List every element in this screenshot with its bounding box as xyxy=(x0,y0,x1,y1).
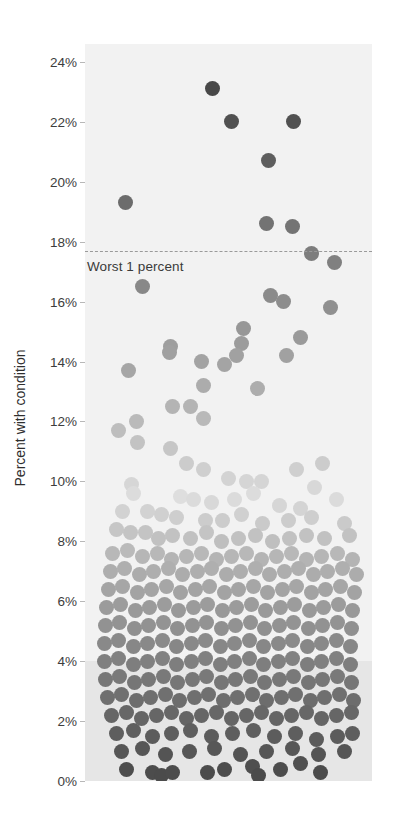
data-point xyxy=(175,567,190,582)
data-point xyxy=(111,423,126,438)
data-point xyxy=(254,705,269,720)
data-point xyxy=(127,621,142,636)
data-point xyxy=(275,582,290,597)
data-point xyxy=(198,651,213,666)
y-tick-label: 16% xyxy=(50,294,77,309)
data-point xyxy=(323,300,338,315)
data-point xyxy=(327,255,342,270)
y-tick-label: 18% xyxy=(50,234,77,249)
data-point xyxy=(233,747,248,762)
data-point xyxy=(246,723,261,738)
data-point xyxy=(285,741,300,756)
data-point xyxy=(214,675,229,690)
data-point xyxy=(207,741,222,756)
data-point xyxy=(135,741,150,756)
y-tick-label: 20% xyxy=(50,174,77,189)
data-point xyxy=(173,585,188,600)
data-point xyxy=(227,636,242,651)
data-point xyxy=(246,579,261,594)
y-tick-label: 12% xyxy=(50,414,77,429)
y-tick-label: 14% xyxy=(50,354,77,369)
data-point xyxy=(156,669,171,684)
data-point xyxy=(194,546,209,561)
data-point xyxy=(198,633,213,648)
data-point xyxy=(100,690,115,705)
data-point xyxy=(221,471,236,486)
data-point xyxy=(330,546,345,561)
data-point xyxy=(243,615,258,630)
data-point xyxy=(243,669,258,684)
data-point xyxy=(132,567,147,582)
data-point xyxy=(158,747,173,762)
data-point xyxy=(315,672,330,687)
data-point xyxy=(227,492,242,507)
data-point xyxy=(248,528,263,543)
data-point xyxy=(307,480,322,495)
data-point xyxy=(342,528,357,543)
data-point xyxy=(185,618,200,633)
data-point xyxy=(183,399,198,414)
data-point xyxy=(115,504,130,519)
data-point xyxy=(256,657,271,672)
data-point xyxy=(332,687,347,702)
data-point xyxy=(335,561,350,576)
data-point xyxy=(164,705,179,720)
data-point xyxy=(170,675,185,690)
data-point xyxy=(140,636,155,651)
data-point xyxy=(272,672,287,687)
data-point xyxy=(228,618,243,633)
data-point xyxy=(286,114,301,129)
data-point xyxy=(285,219,300,234)
data-point xyxy=(343,639,358,654)
y-axis: Percent with condition 24%22%20%18%16%14… xyxy=(0,0,85,830)
data-point xyxy=(141,672,156,687)
data-point xyxy=(143,690,158,705)
data-point xyxy=(121,363,136,378)
data-point xyxy=(171,603,186,618)
data-point xyxy=(288,687,303,702)
data-point xyxy=(271,636,286,651)
data-point xyxy=(188,582,203,597)
data-point xyxy=(109,726,124,741)
data-point xyxy=(140,504,155,519)
data-point xyxy=(259,744,274,759)
y-axis-title: Percent with condition xyxy=(12,303,28,533)
data-point xyxy=(343,657,358,672)
data-point xyxy=(146,564,161,579)
data-point xyxy=(142,600,157,615)
data-point xyxy=(233,564,248,579)
data-point xyxy=(112,669,127,684)
data-point xyxy=(231,531,246,546)
data-point xyxy=(286,615,301,630)
data-point xyxy=(196,462,211,477)
data-point xyxy=(236,321,251,336)
threshold-label: Worst 1 percent xyxy=(87,259,184,274)
data-point xyxy=(306,567,321,582)
data-point xyxy=(98,618,113,633)
data-point xyxy=(194,708,209,723)
threshold-line xyxy=(85,251,372,252)
data-point xyxy=(186,492,201,507)
data-point xyxy=(320,564,335,579)
data-point xyxy=(330,729,345,744)
data-point xyxy=(316,600,331,615)
data-point xyxy=(196,378,211,393)
data-point xyxy=(169,510,184,525)
data-point xyxy=(184,654,199,669)
data-point xyxy=(231,582,246,597)
data-point xyxy=(217,357,232,372)
data-point xyxy=(281,513,296,528)
data-point xyxy=(219,567,234,582)
data-point xyxy=(209,705,224,720)
data-point xyxy=(130,435,145,450)
data-point xyxy=(287,597,302,612)
data-point xyxy=(347,585,362,600)
data-point xyxy=(98,672,113,687)
data-point xyxy=(256,639,271,654)
data-point xyxy=(214,534,229,549)
data-point xyxy=(157,597,172,612)
data-point xyxy=(273,762,288,777)
data-point xyxy=(311,747,326,762)
data-point xyxy=(301,621,316,636)
data-point xyxy=(272,498,287,513)
